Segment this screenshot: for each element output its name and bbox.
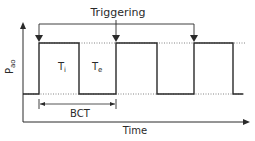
expiratory-time-label: Te bbox=[91, 61, 102, 74]
y-axis-label: Pao bbox=[4, 59, 17, 74]
triggering-bracket-line bbox=[39, 24, 194, 35]
x-axis-arrow-icon bbox=[243, 119, 250, 125]
bct-arrow-left-icon bbox=[40, 102, 45, 106]
pressure-waveform-diagram: Triggering Ti Te Pao BCT Time bbox=[0, 0, 255, 141]
triggering-label: Triggering bbox=[90, 6, 146, 19]
bct-arrow-right-icon bbox=[110, 102, 115, 106]
pressure-waveform bbox=[23, 43, 243, 94]
y-axis-arrow-icon bbox=[20, 22, 26, 29]
trigger-arrow-icon-1 bbox=[35, 35, 43, 42]
x-axis-label: Time bbox=[122, 125, 147, 136]
bct-label: BCT bbox=[70, 108, 91, 119]
trigger-arrow-icon-3 bbox=[190, 35, 198, 42]
inspiratory-time-label: Ti bbox=[57, 61, 66, 74]
trigger-arrow-icon-2 bbox=[112, 35, 120, 42]
